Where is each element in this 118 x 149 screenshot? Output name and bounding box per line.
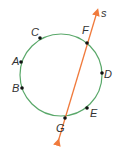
line-label-s: s (101, 7, 107, 19)
circle-diagram: s C A B F D E G (0, 0, 118, 149)
point-f: F (82, 24, 90, 45)
svg-text:G: G (56, 122, 65, 134)
point-e: E (85, 106, 98, 119)
svg-text:D: D (104, 68, 112, 80)
point-b: B (12, 82, 24, 94)
point-c: C (31, 26, 42, 40)
svg-text:A: A (11, 55, 19, 67)
point-g: G (56, 116, 67, 134)
svg-text:C: C (31, 26, 39, 38)
svg-text:F: F (82, 24, 90, 36)
svg-text:E: E (90, 107, 98, 119)
circle (20, 34, 102, 116)
svg-text:B: B (12, 82, 19, 94)
